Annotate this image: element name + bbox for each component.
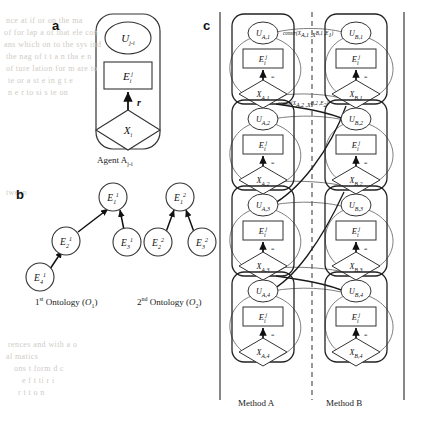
agent-plate-A4: UA,4 Eij = XA,4	[232, 272, 294, 366]
agent-plate-B3: UB,3 Eij = XB,3	[325, 186, 387, 280]
ontology1-node-E41	[26, 263, 54, 291]
ontology1-edge-2	[120, 210, 124, 230]
ontology1-node-E31	[113, 228, 141, 256]
constraint-label-2: constr(XA,2 ,XB,2 ,E2)	[278, 100, 329, 108]
agent-plate-B1: UB,1 Eij = XB,1	[325, 14, 387, 108]
panel-letter-b: b	[16, 187, 24, 202]
ontology2-edge-2	[186, 210, 194, 232]
agent-plate-A1: UA,1 Eij = XA,1	[232, 14, 294, 108]
bleed-text-5: te or a st e in g t e	[8, 76, 73, 85]
panel-c-column-a: UA,1 Eij = XA,1	[232, 14, 294, 366]
bleed-text-3: the nag of t t a n tha e n	[6, 52, 92, 61]
bleed-text-11: e f t ti r i	[22, 376, 55, 385]
agent-A3-equality: =	[271, 246, 275, 252]
bleed-text-4: of ture lation for m are to	[6, 64, 98, 73]
ontology2-edge-1	[166, 210, 174, 232]
agent-plate-A3: UA,3 Eij = XA,3	[232, 186, 294, 280]
agent-B2-equality: =	[364, 160, 368, 166]
bleed-text-12: r t t o n	[18, 388, 45, 397]
panel-a-caption: Agent Aj-i	[97, 155, 133, 167]
bleed-text-10: ons t form d c	[14, 364, 64, 373]
constraint-label-1: constr(XA,1 ,XB,1 ,E1)	[283, 30, 334, 38]
panel-a-group: Uj-i Eij r Xi	[96, 14, 160, 150]
agent-A1-equality: =	[271, 74, 275, 80]
panel-c-column-b: UB,1 Eij = XB,1	[325, 14, 387, 366]
panel-letter-c: c	[203, 18, 210, 33]
agent-plate-B4: UB,4 Eij = XB,4	[325, 272, 387, 366]
ontology2-node-E32	[188, 228, 216, 256]
ontology-2-caption: 2nd Ontology (O2)	[137, 296, 202, 309]
bleed-text-0: nce at if or on the ma	[6, 16, 83, 25]
agent-A4-equality: =	[271, 332, 275, 338]
bleed-text-2: ans which on to the sys ind	[4, 40, 101, 49]
panel-a-edge-label: r	[137, 97, 141, 108]
ontology-1-caption: 1st Ontology (O1)	[35, 296, 98, 309]
ontology1-edge-1	[78, 209, 108, 232]
figure-root: nce at if or on the maof for lap a of th…	[0, 0, 423, 425]
panel-c-group: UA,1 Eij = XA,1	[220, 12, 404, 400]
ontology2-node-E22	[144, 228, 172, 256]
method-b-caption: Method B	[326, 398, 362, 408]
bleed-text-8: rences and with a o	[8, 340, 77, 349]
bleed-text-6: n e r to si s te on	[8, 88, 68, 97]
method-a-caption: Method A	[238, 398, 274, 408]
agent-B3-equality: =	[364, 246, 368, 252]
panel-b-group: E11 E21 E31 E41 E12 E	[26, 183, 216, 291]
ontology2-node-E12	[166, 183, 194, 211]
agent-A2-equality: =	[271, 160, 275, 166]
bleed-text-9: al matics	[6, 352, 38, 361]
agent-B4-equality: =	[364, 332, 368, 338]
agent-plate-B2: UB,2 Eij = XB,2	[325, 100, 387, 194]
ontology1-node-E21	[52, 227, 80, 255]
connector-ax1-bu2	[276, 104, 346, 120]
agent-B1-equality: =	[364, 74, 368, 80]
panel-letter-a: a	[52, 18, 59, 33]
agent-plate-A2: UA,2 Eij = XA,2	[232, 100, 294, 194]
connector-bx1-au3	[270, 106, 346, 206]
